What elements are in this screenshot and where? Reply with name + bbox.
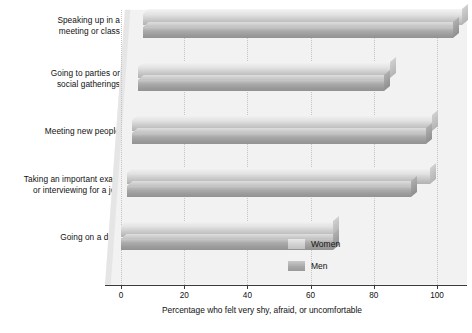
gridline-80: [374, 10, 375, 285]
category-label-4: Going on a date: [2, 232, 120, 242]
legend-swatch-men: [288, 261, 305, 271]
bar-chart: Speaking up in a meeting or classGoing t…: [0, 0, 472, 333]
x-tick-label-20: 20: [172, 291, 196, 300]
bar-front-face: [127, 186, 411, 197]
bar-top-face: [143, 9, 468, 14]
bar-body: [138, 80, 384, 91]
bar-body: [132, 133, 426, 144]
legend-item-women: Women: [288, 236, 366, 252]
x-tick-label-40: 40: [235, 291, 259, 300]
legend-item-men: Men: [288, 258, 366, 274]
bar-top-face: [132, 115, 438, 120]
legend-label: Men: [311, 261, 328, 271]
plot-area: [105, 4, 467, 292]
bar-front-face: [132, 133, 426, 144]
category-label-2: Meeting new people: [2, 126, 120, 136]
chart-legend: WomenMen: [288, 236, 366, 280]
bar-end-cap: [462, 4, 468, 25]
x-axis-line: [105, 285, 467, 286]
x-tick-40: [247, 285, 248, 289]
legend-swatch-women: [288, 239, 305, 249]
bar-top-face: [127, 168, 436, 173]
x-tick-label-100: 100: [425, 291, 449, 300]
bar-top-face: [143, 22, 458, 27]
bar-top-face: [132, 128, 431, 133]
gridline-100: [437, 10, 438, 285]
x-tick-label-80: 80: [362, 291, 386, 300]
bar-body: [127, 186, 411, 197]
bar-body: [143, 27, 453, 38]
bar-top-face: [138, 75, 390, 80]
category-label-0: Speaking up in a meeting or class: [2, 15, 120, 36]
x-axis-label-text: Percentage who felt very shy, afraid, or…: [110, 305, 362, 315]
x-tick-60: [311, 285, 312, 289]
x-tick-100: [437, 285, 438, 289]
bar-top-face: [138, 62, 396, 67]
x-axis-label: Percentage who felt very shy, afraid, or…: [0, 305, 472, 315]
category-axis-labels: Speaking up in a meeting or classGoing t…: [0, 0, 120, 290]
x-tick-80: [374, 285, 375, 289]
x-tick-0: [121, 285, 122, 289]
x-tick-label-0: 0: [109, 291, 133, 300]
category-label-1: Going to parties or social gatherings: [2, 68, 120, 89]
x-tick-20: [184, 285, 185, 289]
x-tick-label-60: 60: [299, 291, 323, 300]
bar-front-face: [143, 27, 453, 38]
legend-label: Women: [311, 239, 340, 249]
bar-top-face: [121, 221, 338, 226]
bar-front-face: [138, 80, 384, 91]
category-label-3: Taking an important exam or interviewing…: [2, 174, 120, 195]
bar-top-face: [127, 181, 417, 186]
